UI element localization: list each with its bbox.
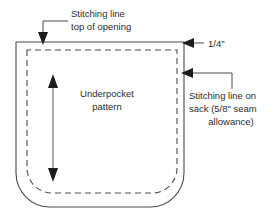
- right-callout-line1: Stitching line on: [189, 90, 256, 101]
- right-callout-line2: sack (5/8" seam: [189, 103, 257, 114]
- center-label-line1: Underpocket: [80, 88, 134, 99]
- top-callout-line2: top of opening: [71, 21, 131, 32]
- top-callout-line1: Stitching line: [71, 8, 125, 19]
- quarter-inch-leader: [182, 38, 204, 48]
- quarter-inch-label: 1/4": [208, 38, 225, 49]
- top-callout-leader: [38, 21, 68, 45]
- diagram-canvas: Stitching line top of opening 1/4" Under…: [0, 0, 277, 221]
- right-callout-line3: allowance): [208, 116, 253, 127]
- pattern-diagram: Stitching line top of opening 1/4" Under…: [0, 0, 277, 221]
- sack-cut-edge-outline: [16, 42, 184, 207]
- center-label-line2: pattern: [92, 101, 122, 112]
- grain-direction-arrow: [48, 74, 58, 182]
- right-callout-leader: [181, 68, 232, 89]
